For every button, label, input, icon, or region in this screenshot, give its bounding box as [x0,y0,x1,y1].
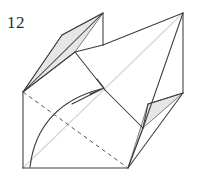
arrow-curve [30,89,101,167]
dashed-edges-group [23,92,128,168]
upper-notch-to-top-right-peak [103,13,183,45]
fold-direction-arrow [30,79,104,167]
step-number-label: 12 [7,14,25,31]
center-to-lower-right [105,90,143,128]
arrow-head [72,79,104,104]
lower-right-to-bottom-mid [128,128,143,168]
left-to-top-left-peak [23,13,103,92]
origami-illustration [0,0,203,175]
origami-diagram-figure: 12 [0,0,203,175]
dashed-fold-line [23,92,128,168]
